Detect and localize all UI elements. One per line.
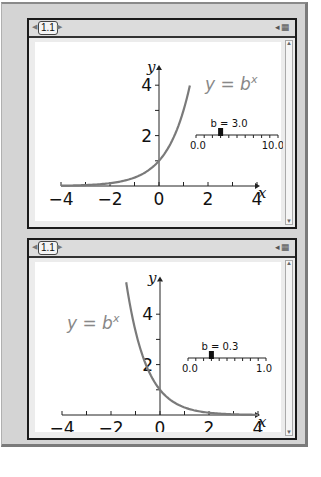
equation-exponent: x xyxy=(250,73,258,86)
y-tick-label: 2 xyxy=(141,126,152,146)
x-tick-label: −2 xyxy=(97,189,122,209)
next-page-arrow-icon[interactable]: ▶ xyxy=(57,23,62,31)
slider-value-label: b = 3.0 xyxy=(211,118,248,129)
equation-label: y = bx xyxy=(66,312,120,333)
x-tick-label: 2 xyxy=(204,418,215,432)
x-tick-label: 0 xyxy=(155,418,166,432)
prev-page-arrow-icon[interactable]: ◀ xyxy=(32,243,37,251)
graph-area[interactable]: −4−202424yxy = bxb = 3.00.010.0 xyxy=(35,42,281,221)
exponential-chart-b3: −4−202424yxy = bxb = 3.00.010.0 xyxy=(35,42,283,221)
prev-page-arrow-icon[interactable]: ◀ xyxy=(32,23,37,31)
slider-min-label: 0.0 xyxy=(190,140,206,151)
page-tab-bar: ◀ 1.1 ▶ ◂▦ xyxy=(29,240,295,258)
slider-max-label: 10.0 xyxy=(262,140,283,151)
y-axis-label: y xyxy=(147,269,157,287)
x-tick-label: −4 xyxy=(48,189,73,209)
x-tick-label: 0 xyxy=(154,189,165,209)
slider-max-label: 1.0 xyxy=(256,363,272,374)
scroll-down-icon[interactable]: ▼ xyxy=(285,218,293,225)
graph-area[interactable]: −4−202424yxy = bxb = 0.30.01.0 xyxy=(35,262,281,432)
scroll-up-icon[interactable]: ▲ xyxy=(285,260,293,267)
scroll-down-icon[interactable]: ▼ xyxy=(285,429,293,436)
page-status-icon: ◂▦ xyxy=(275,22,291,32)
page-status-icon: ◂▦ xyxy=(275,242,291,252)
vertical-scrollbar[interactable]: ▲ ▼ xyxy=(285,260,293,436)
next-page-arrow-icon[interactable]: ▶ xyxy=(57,243,62,251)
y-axis-arrow-icon xyxy=(157,276,163,281)
x-axis-label: x xyxy=(258,184,267,202)
page-tab-bar: ◀ 1.1 ▶ ◂▦ xyxy=(29,20,295,38)
graph-page-1: ◀ 1.1 ▶ ◂▦ −4−202424yxy = bxb = 3.00.010… xyxy=(27,18,297,229)
slider-handle[interactable] xyxy=(209,351,214,359)
vertical-scrollbar[interactable]: ▲ ▼ xyxy=(285,40,293,225)
slider-handle[interactable] xyxy=(218,128,223,136)
exponential-chart-b03: −4−202424yxy = bxb = 0.30.01.0 xyxy=(35,262,283,432)
page-tab[interactable]: 1.1 xyxy=(38,21,58,35)
slider-value-label: b = 0.3 xyxy=(201,341,238,352)
x-tick-label: −4 xyxy=(49,418,74,432)
scroll-up-icon[interactable]: ▲ xyxy=(285,40,293,47)
slider-min-label: 0.0 xyxy=(182,363,198,374)
document-frame: ◀ 1.1 ▶ ◂▦ −4−202424yxy = bxb = 3.00.010… xyxy=(1,2,308,447)
equation-exponent: x xyxy=(112,312,120,325)
function-curve xyxy=(61,85,190,185)
graph-page-2: ◀ 1.1 ▶ ◂▦ −4−202424yxy = bxb = 0.30.01.… xyxy=(27,238,297,440)
x-tick-label: 2 xyxy=(203,189,214,209)
page-tab[interactable]: 1.1 xyxy=(38,241,58,255)
equation-label: y = bx xyxy=(204,73,258,94)
y-tick-label: 4 xyxy=(141,75,152,95)
y-axis-arrow-icon xyxy=(156,65,162,70)
x-axis-label: x xyxy=(258,413,267,431)
x-tick-label: −2 xyxy=(98,418,123,432)
y-tick-label: 4 xyxy=(142,304,153,324)
y-axis-label: y xyxy=(146,58,156,76)
